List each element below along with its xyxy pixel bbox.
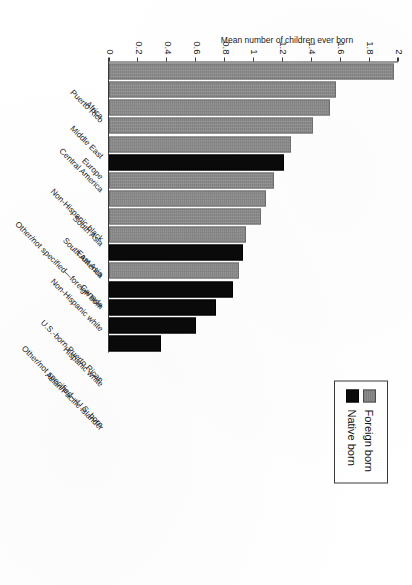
tick-mark xyxy=(340,57,341,61)
bar-column xyxy=(109,189,398,207)
tick-mark xyxy=(195,57,196,61)
bar-column xyxy=(109,80,398,98)
bar-series xyxy=(109,62,398,352)
bar xyxy=(109,335,161,351)
bar xyxy=(109,208,261,224)
bar-column xyxy=(109,298,398,316)
tick-mark xyxy=(369,57,370,61)
value-axis-ticks: 00.20.40.60.811.21.41.61.82 xyxy=(108,0,398,61)
bar xyxy=(109,81,336,97)
bar-column xyxy=(109,243,398,261)
bar xyxy=(109,117,313,133)
bar-column xyxy=(109,280,398,298)
legend-swatch-native-born xyxy=(346,389,359,402)
bar-column xyxy=(109,334,398,352)
bar-column xyxy=(109,171,398,189)
bar xyxy=(109,154,284,170)
category-label: Africa xyxy=(84,99,105,120)
bar xyxy=(109,244,243,260)
category-axis-labels: Puerto RicoAfricaMiddle EastCentral Amer… xyxy=(2,62,107,352)
tick-mark xyxy=(311,57,312,61)
tick-mark xyxy=(108,57,109,61)
legend-label-foreign-born: Foreign born xyxy=(364,409,376,471)
bar-column xyxy=(109,62,398,80)
bar-column xyxy=(109,153,398,171)
chart-legend: Foreign born Native born xyxy=(334,380,388,483)
tick-label: 0 xyxy=(105,49,116,54)
category-label: Middle East xyxy=(68,124,105,161)
legend-item-foreign-born: Foreign born xyxy=(363,389,376,471)
bar xyxy=(109,299,216,315)
bar xyxy=(109,317,196,333)
legend-item-native-born: Native born xyxy=(346,389,359,471)
tick-mark xyxy=(253,57,254,61)
category-label: South Asia xyxy=(71,213,105,247)
bar xyxy=(109,190,267,206)
category-label: Hispanic white xyxy=(61,344,105,388)
bar xyxy=(109,226,246,242)
chart-figure: 00.20.40.60.811.21.41.61.82 Mean number … xyxy=(0,0,412,585)
bar-column xyxy=(109,98,398,116)
bar xyxy=(109,281,233,297)
tick-mark xyxy=(397,57,398,61)
bar-column xyxy=(109,225,398,243)
bar-column xyxy=(109,207,398,225)
bar-column xyxy=(109,316,398,334)
bar xyxy=(109,172,274,188)
bar xyxy=(109,63,394,79)
tick-mark xyxy=(282,57,283,61)
bar-column xyxy=(109,261,398,279)
bar-column xyxy=(109,116,398,134)
value-axis-title: Mean number of children ever born xyxy=(162,34,412,44)
tick-label: 0.2 xyxy=(134,41,145,54)
bar xyxy=(109,99,330,115)
legend-label-native-born: Native born xyxy=(347,409,359,465)
tick-mark xyxy=(137,57,138,61)
tick-label: 1 xyxy=(250,49,261,54)
tick-label: 2 xyxy=(394,49,405,54)
tick-mark xyxy=(166,57,167,61)
legend-swatch-foreign-born xyxy=(363,389,376,402)
bar xyxy=(109,262,239,278)
category-label: East Asia xyxy=(74,248,105,279)
bar-column xyxy=(109,135,398,153)
bar xyxy=(109,136,291,152)
tick-mark xyxy=(224,57,225,61)
